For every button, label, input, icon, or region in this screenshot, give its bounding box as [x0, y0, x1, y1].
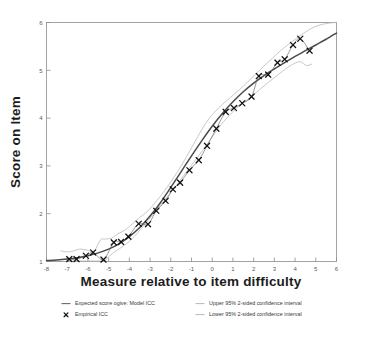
- icc-chart-figure: -8-7-6-5-4-3-2-10123456 123456 Measure r…: [0, 0, 383, 345]
- legend-label: Upper 95% 2-sided confidence interval: [209, 300, 302, 306]
- x-tick-label: -2: [168, 266, 174, 272]
- legend-item: Lower 95% 2-sided confidence interval: [196, 311, 302, 317]
- x-tick-label: -3: [147, 266, 153, 272]
- legend-item: Expected score ogive: Model ICC: [62, 300, 156, 306]
- x-tick-label: -6: [85, 266, 91, 272]
- chart-canvas: -8-7-6-5-4-3-2-10123456 123456 Measure r…: [0, 0, 383, 345]
- x-axis-title: Measure relative to item difficulty: [81, 274, 302, 289]
- x-tick-label: -1: [189, 266, 195, 272]
- legend-label: Expected score ogive: Model ICC: [75, 300, 155, 306]
- legend-label: Lower 95% 2-sided confidence interval: [209, 311, 302, 317]
- y-axis-title: Score on Item: [8, 96, 23, 188]
- x-tick-label: -7: [65, 266, 71, 272]
- x-tick-label: -8: [44, 266, 50, 272]
- legend-item: Upper 95% 2-sided confidence interval: [196, 300, 302, 306]
- x-tick-label: -4: [127, 266, 133, 272]
- legend-label: Empirical ICC: [75, 311, 108, 317]
- x-tick-label: -5: [106, 266, 112, 272]
